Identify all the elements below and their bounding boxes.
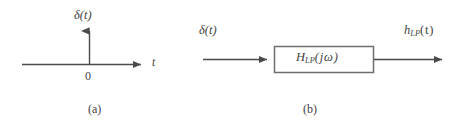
output-label-argument: (t)	[420, 23, 434, 37]
panel-a-horizontal-axis-label: t	[152, 57, 155, 69]
block-label-symbol: H	[296, 50, 305, 64]
panel-b-caption: (b)	[303, 103, 317, 115]
panel-a-caption: (a)	[88, 103, 101, 115]
panel-a-vertical-axis-label: δ(t)	[74, 9, 92, 22]
filter-block-label: HLP(jω)	[296, 51, 339, 66]
panel-b-output-label: hLP(t)	[404, 24, 434, 39]
panel-b-input-label: δ(t)	[199, 24, 217, 37]
figure-vector-layer	[0, 0, 470, 131]
panel-a-origin-label: 0	[85, 70, 91, 82]
output-label-subscript: LP	[410, 29, 420, 38]
panel-a-axes	[22, 31, 141, 65]
figure-container: δ(t) t 0 (a) δ(t) hLP(t) HLP(jω) (b)	[0, 0, 470, 131]
block-label-subscript: LP	[305, 56, 315, 65]
block-label-argument: (jω)	[315, 50, 339, 64]
